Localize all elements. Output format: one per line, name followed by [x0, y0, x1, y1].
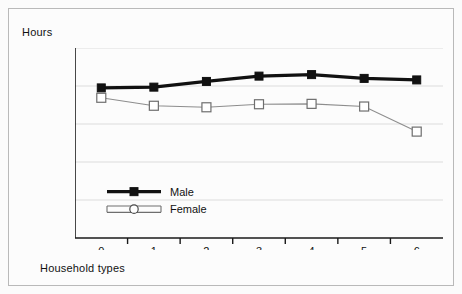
legend-item-male: Male — [107, 186, 194, 198]
data-point-male-3 — [255, 72, 263, 80]
legend-marker-filled-square — [130, 188, 138, 196]
chart-figure: Hours Household types 01020304050 012345… — [0, 0, 462, 294]
x-tick-label: 1 — [151, 245, 157, 250]
plot-area: 01020304050 0123456 MaleFemale — [75, 48, 443, 250]
legend-item-female: Female — [107, 203, 207, 215]
data-point-female-5 — [360, 102, 369, 111]
x-tick-label: 5 — [361, 245, 367, 250]
data-point-male-0 — [97, 84, 105, 92]
x-axis-title: Household types — [40, 262, 125, 274]
x-tick-group: 0123456 — [98, 238, 420, 250]
x-tick-label: 2 — [203, 245, 209, 250]
x-tick-label: 6 — [414, 245, 420, 250]
data-point-male-6 — [413, 76, 421, 84]
x-tick-label: 0 — [98, 245, 104, 250]
data-point-male-4 — [308, 71, 316, 79]
data-point-female-0 — [97, 93, 106, 102]
gridlines-group — [75, 48, 443, 200]
data-point-female-6 — [412, 127, 421, 136]
data-point-female-2 — [202, 103, 211, 112]
data-point-female-1 — [149, 101, 158, 110]
data-series-group — [97, 71, 421, 137]
data-point-male-2 — [202, 77, 210, 85]
legend-marker-open-circle — [130, 205, 138, 213]
data-point-female-4 — [307, 99, 316, 108]
data-point-female-3 — [255, 100, 264, 109]
x-tick-label: 3 — [256, 245, 262, 250]
x-tick-label: 4 — [309, 245, 315, 250]
legend-label: Male — [170, 186, 194, 198]
y-axis-title: Hours — [22, 26, 52, 38]
legend-label: Female — [170, 203, 207, 215]
data-point-male-5 — [360, 74, 368, 82]
data-point-male-1 — [150, 83, 158, 91]
chart-canvas: 01020304050 0123456 MaleFemale — [75, 48, 443, 250]
